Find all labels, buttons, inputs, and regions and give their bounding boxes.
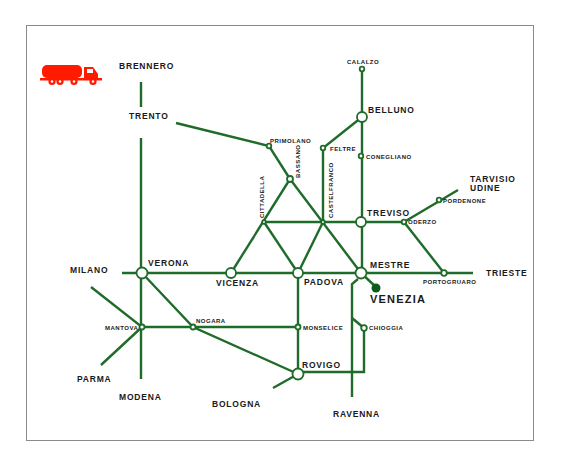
station-monselice (296, 325, 301, 330)
station-belluno (357, 112, 367, 122)
station-cittadella (262, 220, 266, 224)
label-udine: UDINE (470, 184, 500, 193)
label-brennero: BRENNERO (119, 62, 174, 71)
label-primolano: PRIMOLANO (270, 138, 311, 144)
line-castelfranco-padova (298, 222, 323, 273)
label-padova: PADOVA (304, 278, 344, 287)
label-calalzo: CALALZO (347, 59, 379, 65)
line-bassano-mestre (290, 179, 361, 273)
label-vicenza: VICENZA (216, 279, 259, 288)
station-bassano (287, 176, 293, 182)
label-venezia: VENEZIA (370, 294, 426, 305)
label-modena: MODENA (119, 393, 162, 402)
station-calalzo (360, 67, 365, 72)
station-castelfranco (321, 220, 325, 224)
station-verona (137, 268, 148, 279)
station-oderzo (402, 220, 407, 225)
station-primolano (267, 144, 272, 149)
station-chioggia (361, 325, 367, 331)
label-chioggia: CHIOGGIA (369, 325, 403, 331)
label-bassano: BASSANO (295, 144, 301, 178)
label-pordenone: PORDENONE (443, 198, 486, 204)
station-nogara (191, 325, 196, 330)
label-milano: MILANO (70, 266, 108, 275)
station-feltre (321, 146, 326, 151)
station-conegliano (359, 154, 364, 159)
label-portogruaro: PORTOGRUARO (423, 279, 476, 285)
station-vicenza (226, 268, 236, 278)
label-conegliano: CONEGLIANO (366, 154, 412, 160)
line-mestre-ravenna (352, 279, 358, 397)
station-mestre (356, 268, 367, 279)
label-castelfranco: CASTELFRANCO (328, 162, 334, 218)
label-ravenna: RAVENNA (333, 410, 380, 419)
label-rovigo: ROVIGO (302, 361, 341, 370)
label-bologna: BOLOGNA (212, 400, 261, 409)
label-cittadella: CITTADELLA (259, 176, 265, 218)
label-nogara: NOGARA (196, 318, 226, 324)
station-rovigo (293, 369, 304, 380)
station-portogruaro (441, 270, 447, 276)
station-treviso (356, 217, 366, 227)
station-mantova (140, 325, 145, 330)
line-oderzo-tarvisio (404, 190, 458, 222)
label-oderzo: ODERZO (408, 219, 437, 225)
station-pordenone (437, 198, 442, 203)
label-verona: VERONA (148, 259, 189, 268)
label-monselice: MONSELICE (303, 325, 343, 331)
label-treviso: TREVISO (367, 209, 410, 218)
rail-network (0, 0, 562, 461)
label-mantova: MANTOVA (105, 325, 138, 331)
label-trento: TRENTO (129, 112, 169, 121)
station-venezia (372, 284, 381, 293)
label-mestre: MESTRE (370, 261, 410, 270)
line-trento-bassano (176, 123, 290, 179)
label-feltre: FELTRE (330, 146, 356, 152)
station-padova (293, 268, 303, 278)
line-cittadella-padova (264, 222, 298, 273)
label-trieste: TRIESTE (486, 269, 528, 278)
label-belluno: BELLUNO (368, 106, 415, 115)
label-parma: PARMA (77, 375, 112, 384)
